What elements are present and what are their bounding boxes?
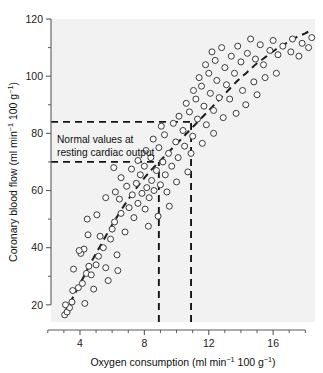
scatter-point — [142, 206, 148, 212]
scatter-point — [219, 45, 225, 51]
y-tick-label: 60 — [31, 184, 43, 196]
scatter-point — [103, 195, 109, 201]
x-axis-title: Oxygen consumption (ml min−1 100 g−1) — [90, 355, 275, 368]
x-tick-label: 8 — [141, 337, 147, 349]
scatter-point — [235, 43, 241, 49]
x-title-sup2: −1 — [264, 355, 272, 364]
scatter-point — [161, 132, 167, 138]
scatter-point — [103, 265, 109, 271]
scatter-point — [267, 47, 273, 53]
coronary-blood-flow-scatter-figure: 20406080100120 481216 Normal values at r… — [0, 0, 323, 373]
y-title-mid: 100 g — [7, 94, 19, 123]
scatter-point — [108, 236, 114, 242]
scatter-point — [176, 113, 182, 119]
scatter-point — [257, 42, 263, 48]
scatter-point — [84, 216, 90, 222]
y-axis: 20406080100120 — [25, 13, 51, 311]
scatter-point — [185, 169, 191, 175]
y-tick-label: 20 — [31, 299, 43, 311]
scatter-point — [170, 120, 176, 126]
scatter-point — [296, 53, 302, 59]
scatter-point — [214, 77, 220, 83]
scatter-point — [166, 203, 172, 209]
scatter-point — [273, 70, 279, 76]
scatter-point — [129, 192, 135, 198]
scatter-point — [93, 262, 99, 268]
scatter-point — [85, 232, 91, 238]
scatter-point — [116, 196, 122, 202]
scatter-point — [122, 229, 128, 235]
scatter-point — [118, 175, 124, 181]
scatter-point — [76, 248, 82, 254]
scatter-point — [174, 179, 180, 185]
scatter-point — [209, 49, 215, 55]
scatter-point — [69, 299, 75, 305]
scatter-point — [201, 103, 207, 109]
scatter-point — [105, 278, 111, 284]
scatter-point — [186, 109, 192, 115]
scatter-point — [164, 189, 170, 195]
scatter-point — [153, 168, 159, 174]
y-title-sup1: −1 — [6, 123, 15, 131]
scatter-point — [289, 36, 295, 42]
y-title-main: Coronary blood flow (ml min — [7, 131, 19, 262]
scatter-point — [196, 75, 202, 81]
scatter-point — [182, 143, 188, 149]
scatter-point — [232, 70, 238, 76]
scatter-point — [275, 52, 281, 58]
annotation-line-1: Normal values at — [57, 134, 134, 145]
scatter-point — [131, 215, 137, 221]
scatter-point — [199, 83, 205, 89]
scatter-point — [91, 286, 97, 292]
scatter-point — [94, 212, 100, 218]
scatter-point — [169, 163, 175, 169]
y-title-sup2: −1 — [6, 86, 15, 94]
scatter-point — [141, 163, 147, 169]
scatter-point — [160, 159, 166, 165]
y-axis-title-text: Coronary blood flow (ml min−1 100 g−1) — [6, 82, 19, 262]
x-tick-label: 4 — [77, 337, 83, 349]
scatter-point — [173, 139, 179, 145]
scatter-point — [155, 213, 161, 219]
scatter-point — [71, 266, 77, 272]
x-axis: 481216 — [48, 330, 306, 349]
scatter-point — [180, 127, 186, 133]
scatter-point — [203, 62, 209, 68]
scatter-point — [212, 57, 218, 63]
y-title-end: ) — [7, 82, 19, 86]
scatter-point — [203, 122, 209, 128]
x-title-end: ) — [272, 356, 276, 368]
scatter-point — [118, 210, 124, 216]
scatter-point — [309, 35, 315, 41]
scatter-point — [207, 90, 213, 96]
scatter-point — [62, 302, 68, 308]
scatter-point — [248, 36, 254, 42]
scatter-point — [262, 75, 268, 81]
y-axis-title: Coronary blood flow (ml min−1 100 g−1) — [6, 82, 19, 262]
scatter-point — [243, 102, 249, 108]
y-tick-label: 120 — [25, 13, 43, 25]
scatter-point — [199, 140, 205, 146]
scatter-point — [144, 185, 150, 191]
scatter-point — [151, 188, 157, 194]
scatter-point — [251, 79, 257, 85]
scatter-point — [299, 40, 305, 46]
scatter-point — [145, 223, 151, 229]
scatter-point — [114, 252, 120, 258]
scatter-point — [252, 56, 258, 62]
scatter-point — [260, 62, 266, 68]
annotation-line-2: resting cardiac output — [57, 147, 155, 158]
x-title-mid: 100 g — [235, 356, 264, 368]
scatter-point — [79, 280, 85, 286]
scatter-point — [86, 263, 92, 269]
scatter-point — [240, 87, 246, 93]
x-title-sup1: −1 — [226, 355, 234, 364]
scatter-point — [112, 189, 118, 195]
scatter-point — [133, 180, 139, 186]
scatter-point — [156, 145, 162, 151]
scatter-point — [244, 50, 250, 56]
scatter-point — [162, 172, 168, 178]
scatter-point — [135, 200, 141, 206]
scatter-point — [211, 130, 217, 136]
scatter-point — [88, 272, 94, 278]
